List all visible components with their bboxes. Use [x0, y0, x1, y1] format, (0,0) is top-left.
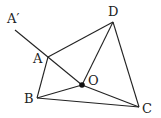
segment-o-c — [82, 85, 139, 107]
label-c: C — [142, 101, 152, 116]
label-o: O — [88, 73, 99, 88]
label-b: B — [24, 91, 34, 106]
segment-b-c — [37, 98, 139, 107]
label-a: A — [32, 51, 43, 66]
segment-aprime-o — [15, 30, 82, 85]
label-a-prime: A′ — [6, 11, 19, 26]
label-d: D — [108, 4, 118, 19]
geometry-diagram: A′ A B C D O — [0, 0, 161, 118]
point-o-dot — [79, 82, 85, 88]
segment-a-d — [48, 22, 113, 57]
segment-b-o — [37, 85, 82, 98]
segment-d-c — [113, 22, 139, 107]
